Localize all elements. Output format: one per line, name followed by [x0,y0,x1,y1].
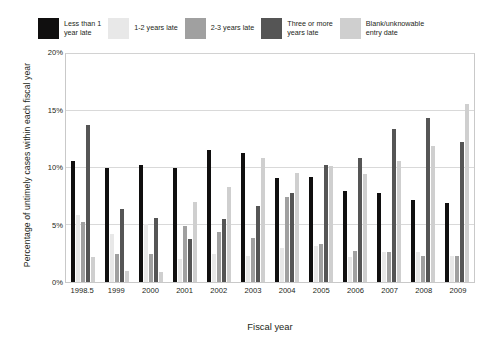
bar [251,238,255,282]
bar [91,257,95,282]
bar [76,215,80,282]
bar [125,271,129,282]
bar [343,191,347,282]
x-axis-title: Fiscal year [60,321,480,332]
x-axis-tick-label: 2005 [304,286,338,300]
legend-swatch [185,18,206,39]
legend-label: 1-2 years late [134,23,178,32]
bar [392,129,396,282]
legend-entry: 1-2 years late [108,14,178,42]
bar [450,256,454,282]
legend-swatch [38,18,59,39]
legend-label: Less than 1 year late [64,19,101,38]
bar-group [440,54,474,282]
y-axis-tick-label: 20% [48,48,63,57]
bar [397,161,401,282]
bar [426,118,430,282]
chart-legend: Less than 1 year late1-2 years late2-3 y… [38,14,468,44]
plot-area [65,53,475,283]
bars-layer [66,54,474,282]
x-axis-tick-label: 2008 [407,286,441,300]
legend-entry: Less than 1 year late [38,14,101,42]
bar [348,257,352,282]
bar [149,254,153,283]
bar [207,150,211,282]
bar [71,161,75,282]
legend-entry: Blank/unknowable entry date [340,14,424,42]
legend-swatch [340,18,361,39]
legend-swatch [108,18,129,39]
legend-label: 2-3 years late [211,23,255,32]
bar [227,187,231,282]
legend-label: Blank/unknowable entry date [366,19,424,38]
x-axis-tick-label: 1999 [99,286,133,300]
bar [319,244,323,282]
bar [324,165,328,282]
bar [159,272,163,282]
x-axis-tick-label: 2002 [202,286,236,300]
bar-group [372,54,406,282]
bar [411,200,415,282]
x-axis-tick-label: 2007 [373,286,407,300]
bar [382,252,386,282]
bar-group [236,54,270,282]
bar [81,222,85,282]
bar [139,165,143,282]
bar [295,173,299,282]
bar [241,153,245,282]
bar-group [338,54,372,282]
bar [314,246,318,282]
bar [416,252,420,282]
x-axis-tick-label: 2004 [270,286,304,300]
x-axis-tick-label: 2000 [133,286,167,300]
bar-group [202,54,236,282]
bar [285,197,289,283]
bar-group [406,54,440,282]
x-axis-tick-label: 2006 [338,286,372,300]
bar [144,224,148,282]
y-axis-title: Percentage of untimely cases within each… [22,50,32,280]
bar [280,248,284,282]
bar-group [134,54,168,282]
bar-group [168,54,202,282]
bar [183,226,187,282]
bar [309,177,313,282]
bar [222,219,226,282]
bar [154,218,158,282]
bar [256,206,260,282]
bar [188,239,192,282]
y-axis-tick-label: 10% [48,163,63,172]
bar [275,178,279,282]
bar [290,193,294,282]
x-axis-tick-labels: 1998.51999200020012002200320042005200620… [65,286,475,300]
bar-group [270,54,304,282]
bar [445,203,449,282]
bar [246,256,250,282]
bar [363,174,367,282]
bar [193,202,197,282]
bar-group [304,54,338,282]
legend-label: Three or more years late [287,19,333,38]
legend-entry: 2-3 years late [185,14,255,42]
legend-swatch [261,18,282,39]
bar [353,251,357,282]
legend-entry: Three or more years late [261,14,333,42]
bar [358,158,362,282]
bar [110,234,114,282]
bar [212,254,216,283]
x-axis-tick-label: 1998.5 [65,286,99,300]
y-axis-tick-labels: 0%5%10%15%20% [38,53,63,283]
bar [105,168,109,282]
bar [86,125,90,282]
x-axis-tick-label: 2001 [168,286,202,300]
bar [120,209,124,282]
y-axis-tick-label: 0% [52,278,63,287]
y-axis-tick-label: 15% [48,106,63,115]
bar-group [100,54,134,282]
x-axis-tick-label: 2003 [236,286,270,300]
bar [431,146,435,282]
bar [377,193,381,282]
bar [387,252,391,282]
bar [178,259,182,282]
bar-group [66,54,100,282]
